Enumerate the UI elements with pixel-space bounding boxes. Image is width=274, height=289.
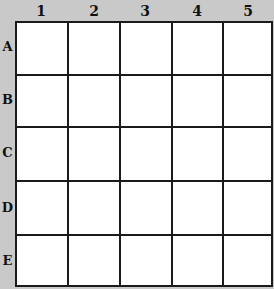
column-label-3: 3 bbox=[135, 2, 155, 20]
cell-a4[interactable] bbox=[173, 23, 224, 76]
cell-a1[interactable] bbox=[17, 23, 69, 76]
cell-c4[interactable] bbox=[173, 128, 224, 182]
cell-d4[interactable] bbox=[173, 182, 224, 236]
cell-c3[interactable] bbox=[121, 128, 173, 182]
cell-b5[interactable] bbox=[224, 76, 271, 128]
cell-d3[interactable] bbox=[121, 182, 173, 236]
row-label-e: E bbox=[0, 253, 15, 268]
cell-d1[interactable] bbox=[17, 182, 69, 236]
column-label-4: 4 bbox=[187, 2, 207, 20]
cell-a2[interactable] bbox=[69, 23, 121, 76]
cell-e3[interactable] bbox=[121, 236, 173, 285]
row-label-a: A bbox=[0, 39, 15, 54]
row-label-b: B bbox=[0, 92, 15, 107]
cell-b1[interactable] bbox=[17, 76, 69, 128]
row-label-d: D bbox=[0, 200, 15, 215]
cell-e5[interactable] bbox=[224, 236, 271, 285]
cell-e2[interactable] bbox=[69, 236, 121, 285]
cell-e4[interactable] bbox=[173, 236, 224, 285]
cell-b2[interactable] bbox=[69, 76, 121, 128]
cell-d2[interactable] bbox=[69, 182, 121, 236]
cell-e1[interactable] bbox=[17, 236, 69, 285]
column-label-2: 2 bbox=[84, 2, 104, 20]
cell-a5[interactable] bbox=[224, 23, 271, 76]
cell-b3[interactable] bbox=[121, 76, 173, 128]
cell-b4[interactable] bbox=[173, 76, 224, 128]
cell-c1[interactable] bbox=[17, 128, 69, 182]
row-label-c: C bbox=[0, 145, 15, 160]
grid bbox=[15, 21, 273, 287]
cell-d5[interactable] bbox=[224, 182, 271, 236]
column-label-1: 1 bbox=[31, 2, 51, 20]
cell-c2[interactable] bbox=[69, 128, 121, 182]
column-label-5: 5 bbox=[238, 2, 258, 20]
cell-c5[interactable] bbox=[224, 128, 271, 182]
cell-a3[interactable] bbox=[121, 23, 173, 76]
